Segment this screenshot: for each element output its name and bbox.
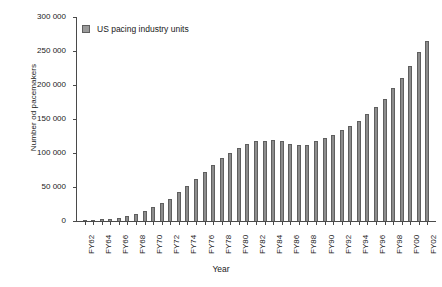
bar (271, 140, 275, 221)
x-axis-tick-label: FY76 (208, 235, 216, 254)
chart-legend: US pacing industry units (82, 24, 189, 34)
bar (83, 220, 87, 221)
bar (331, 135, 335, 221)
bar (151, 207, 155, 221)
y-axis-tick-label: 250 000 (37, 47, 66, 55)
x-axis-tick-label: FY90 (328, 235, 336, 254)
x-axis-tick-label: FY74 (190, 235, 198, 254)
bar (425, 41, 429, 221)
bar (160, 203, 164, 221)
x-axis-tick-label: FY84 (276, 235, 284, 254)
x-axis-tick-label: FY82 (259, 235, 267, 254)
bar (143, 211, 147, 221)
bar (185, 186, 189, 221)
bar (220, 158, 224, 221)
bar (117, 218, 121, 221)
bar (203, 172, 207, 221)
x-axis-tick-label: FY80 (242, 235, 250, 254)
x-axis-tick-label: FY68 (139, 235, 147, 254)
bar (134, 214, 138, 221)
x-axis-title: Year (0, 264, 442, 274)
pacemaker-units-bar-chart: Number od pacemakers 300 000250 000200 0… (0, 0, 442, 287)
bar (91, 220, 95, 221)
bar (323, 138, 327, 221)
x-axis-tick-label: FY70 (156, 235, 164, 254)
x-axis-tick-label: FY94 (362, 235, 370, 254)
bar (400, 78, 404, 221)
bar (237, 148, 241, 221)
x-axis-tick-label: FY66 (122, 235, 130, 254)
bar (314, 141, 318, 221)
bar (194, 179, 198, 221)
y-axis-tick-mark (73, 221, 76, 222)
x-axis-tick-label: FY86 (293, 235, 301, 254)
y-axis-tick-label: 200 000 (37, 81, 66, 89)
x-axis-tick-labels: FY62FY64FY66FY68FY70FY72FY74FY76FY78FY80… (76, 224, 436, 264)
bar (305, 145, 309, 221)
bar (297, 145, 301, 221)
bar (357, 121, 361, 221)
x-axis-tick-label: FY92 (345, 235, 353, 254)
bar (177, 192, 181, 221)
bar (245, 144, 249, 221)
x-axis-tick-label: FY64 (105, 235, 113, 254)
bar (340, 130, 344, 221)
bar (417, 52, 421, 221)
bar (374, 107, 378, 221)
bar (365, 114, 369, 221)
legend-swatch-icon (82, 25, 90, 33)
bar (280, 141, 284, 221)
plot-area (76, 17, 436, 221)
x-axis-tick-label: FY62 (88, 235, 96, 254)
y-axis-tick-labels: 300 000250 000200 000150 000100 00050 00… (0, 0, 72, 287)
y-axis-tick-label: 50 000 (42, 183, 66, 191)
x-axis-tick-label: FY00 (413, 235, 421, 254)
bar (408, 66, 412, 221)
bar (348, 126, 352, 221)
bar (211, 165, 215, 221)
bar-series (76, 17, 436, 221)
x-axis-tick-label: FY72 (173, 235, 181, 254)
bar (108, 219, 112, 221)
bar (254, 141, 258, 221)
bar (383, 99, 387, 221)
y-axis-tick-label: 0 (62, 217, 66, 225)
x-axis-tick-label: FY02 (430, 235, 438, 254)
bar (228, 153, 232, 221)
legend-label: US pacing industry units (97, 24, 189, 34)
x-axis-tick-label: FY98 (396, 235, 404, 254)
bar (100, 219, 104, 221)
x-axis-tick-label: FY96 (379, 235, 387, 254)
bar (263, 141, 267, 221)
y-axis-tick-label: 150 000 (37, 115, 66, 123)
bar (288, 144, 292, 221)
bar (168, 199, 172, 221)
bar (391, 88, 395, 221)
x-axis-tick-label: FY78 (225, 235, 233, 254)
y-axis-tick-label: 300 000 (37, 13, 66, 21)
bar (125, 216, 129, 221)
y-axis-tick-label: 100 000 (37, 149, 66, 157)
x-axis-tick-label: FY88 (310, 235, 318, 254)
